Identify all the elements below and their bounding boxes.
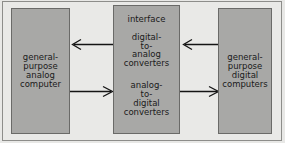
- node-interface-dac-line-4: converters: [124, 59, 170, 68]
- node-interface: interface digital- to- analog converters…: [113, 5, 180, 134]
- node-digital-computers: general- purpose digital computers: [218, 8, 272, 134]
- connector-dac-to-analog: [68, 38, 115, 51]
- node-interface-adc: analog- to- digital converters: [124, 81, 170, 116]
- node-interface-title: interface: [128, 15, 166, 24]
- node-analog-computer-line-4: computer: [20, 80, 61, 89]
- node-analog-computer: general- purpose analog computer: [11, 8, 70, 134]
- connector-adc-to-digital: [179, 85, 221, 98]
- node-interface-dac: digital- to- analog converters: [124, 33, 170, 68]
- diagram-canvas: general- purpose analog computer interfa…: [0, 0, 285, 143]
- connector-digital-to-dac: [179, 38, 220, 51]
- node-digital-computers-line-4: computers: [222, 80, 267, 89]
- node-interface-adc-line-4: converters: [124, 108, 170, 117]
- connector-analog-to-adc: [69, 85, 116, 98]
